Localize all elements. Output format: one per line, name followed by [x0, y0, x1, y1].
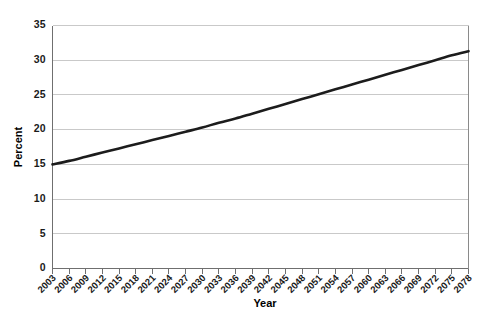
percent-vs-year-line-chart: 05101520253035 2003200620092012201520182… [0, 0, 497, 320]
y-tick-label-25: 25 [34, 88, 46, 100]
y-tick-label-0: 0 [40, 261, 46, 273]
y-tick-label-30: 30 [34, 53, 46, 65]
y-tick-label-15: 15 [34, 157, 46, 169]
chart-container: 05101520253035 2003200620092012201520182… [0, 0, 497, 320]
y-tick-label-10: 10 [34, 192, 46, 204]
y-axis-title: Percent [12, 126, 24, 167]
y-tick-label-5: 5 [40, 227, 46, 239]
x-axis-title: Year [253, 297, 277, 309]
y-tick-label-35: 35 [34, 18, 46, 30]
y-tick-label-20: 20 [34, 122, 46, 134]
